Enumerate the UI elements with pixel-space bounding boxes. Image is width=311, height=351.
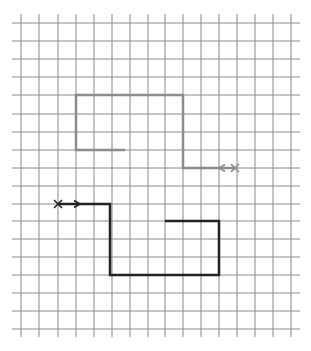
gray-path [76,95,239,172]
black-path [54,200,219,275]
grid-worksheet [0,0,311,351]
grid-lines [12,14,300,337]
paths-layer [54,95,239,275]
